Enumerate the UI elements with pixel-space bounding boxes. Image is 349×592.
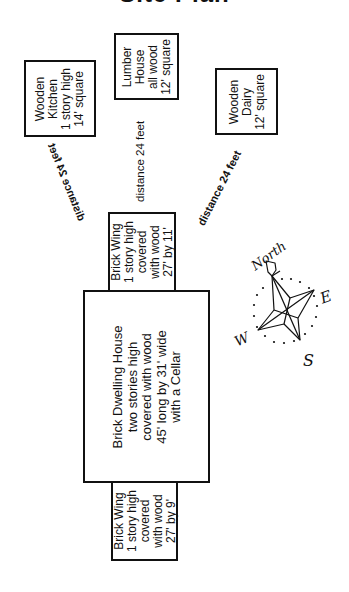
distance-label-dairy: distance 24 feet [195,148,243,227]
label-line: 27' by 9' [164,490,177,552]
label-line: 12' square [253,74,266,130]
brick-dwelling-house-box: Brick Dwelling House two stories high co… [83,290,210,483]
label-line: Dairy [240,74,253,130]
wooden-kitchen-label: Wooden Kitchen 1 story high 14' square [34,67,86,129]
label-line: with a Cellar [168,325,183,448]
lumber-house-box: Lumber House all wood 12' square [114,33,179,100]
label-line: all wood [147,39,160,95]
label-line: Wooden [227,74,240,130]
south-brick-wing-label: Brick Wing 1 story high covered with woo… [112,490,177,552]
compass-star-icon: North E W S [228,238,338,378]
label-line: Lumber [121,39,134,95]
compass-east-label: E [317,287,334,308]
wooden-dairy-box: Wooden Dairy 12' square [215,68,278,135]
brick-dwelling-house-label: Brick Dwelling House two stories high co… [110,325,183,448]
compass-west-label: W [232,328,253,349]
compass-south-label: S [303,351,314,370]
label-line: House [134,39,147,95]
wooden-dairy-label: Wooden Dairy 12' square [227,74,266,130]
distance-label-kitchen: distance 24 feet [46,141,88,222]
south-brick-wing-box: Brick Wing 1 story high covered with woo… [111,481,178,561]
north-brick-wing-label: Brick Wing 1 story high covered with woo… [110,221,175,283]
label-line: 12' square [160,39,173,95]
label-line: 14' square [73,67,86,129]
lumber-house-label: Lumber House all wood 12' square [121,39,173,95]
distance-label-lumber-house: distance 24 feet [134,121,146,202]
label-line: Brick Dwelling House [110,325,125,448]
label-line: with wood [151,490,164,552]
compass-rose: North E W S [228,238,338,378]
wooden-kitchen-box: Wooden Kitchen 1 story high 14' square [24,60,96,137]
label-line: 1 story high [125,490,138,552]
label-line: 27' by 11' [162,221,175,283]
compass-north-label: North [248,238,289,273]
label-line: covered with wood [139,325,154,448]
diagram-title: Site Plan [0,0,349,6]
north-brick-wing-box: Brick Wing 1 story high covered with woo… [108,212,176,292]
label-line: Brick Wing [112,490,125,552]
label-line: two stories high [125,325,140,448]
label-line: covered [138,490,151,552]
label-line: 45' long by 31' wide [154,325,169,448]
